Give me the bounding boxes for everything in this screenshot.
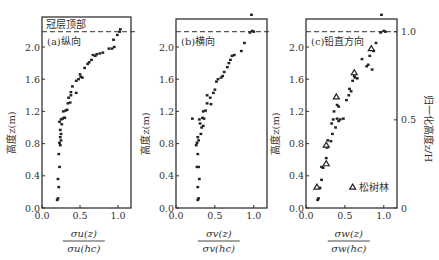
data-point	[199, 133, 202, 135]
data-point	[70, 91, 73, 93]
data-point	[113, 46, 116, 48]
data-point-triangle	[368, 46, 374, 51]
data-point	[67, 97, 70, 99]
data-point	[101, 51, 104, 53]
y-tick-label: 2.0	[159, 42, 174, 53]
y-tick-label: 1.2	[289, 106, 304, 117]
y-tick-label: 0.8	[25, 138, 40, 149]
panel-label: (b)横向	[181, 35, 215, 47]
data-point	[332, 118, 335, 120]
data-point-triangle	[323, 161, 329, 166]
x-tick-label: 1.0	[111, 210, 126, 221]
x-axis-label-denominator: σu(hc)	[67, 243, 100, 254]
data-point	[252, 31, 255, 33]
data-point	[58, 142, 61, 144]
data-point	[206, 94, 209, 96]
plot-frame	[176, 19, 267, 208]
panel-label: (a)纵向	[47, 35, 81, 47]
data-point	[330, 122, 333, 124]
data-point-triangle	[323, 142, 329, 147]
data-point	[59, 144, 62, 146]
data-point	[196, 136, 199, 138]
data-point	[337, 120, 340, 122]
x-axis-label-numerator: σv(z)	[206, 228, 232, 239]
data-point	[75, 92, 78, 94]
data-point	[351, 80, 354, 82]
right-y-tick-label: 0.5	[401, 114, 416, 125]
data-point	[329, 140, 332, 142]
data-point	[59, 136, 62, 138]
data-point	[58, 121, 61, 123]
data-point	[95, 53, 98, 55]
data-point	[331, 133, 334, 135]
y-tick-label: 0.4	[159, 170, 174, 181]
panel-b: 0.00.40.81.21.62.00.00.51.0(b)横向高度z(m)σv…	[139, 14, 271, 254]
y-tick-label: 1.6	[25, 74, 40, 85]
data-point	[326, 139, 329, 141]
data-point	[195, 144, 198, 146]
data-point	[118, 31, 121, 33]
data-point	[347, 94, 350, 96]
data-point	[197, 166, 200, 168]
data-point	[191, 117, 194, 119]
canopy-top-label: 冠层顶部	[46, 18, 86, 30]
data-point	[119, 28, 122, 30]
data-point	[60, 139, 63, 141]
x-tick-label: 0.5	[337, 210, 352, 221]
data-point	[317, 197, 320, 199]
data-point	[60, 123, 63, 125]
data-point	[206, 102, 209, 104]
data-point-triangle	[314, 184, 320, 189]
y-tick-label: 1.6	[289, 74, 304, 85]
data-point	[198, 178, 201, 180]
data-point	[198, 118, 201, 120]
data-point	[71, 85, 74, 87]
right-y-tick-label: 1.0	[401, 26, 416, 37]
data-point	[57, 178, 60, 180]
data-point	[58, 166, 61, 168]
data-point	[217, 78, 220, 80]
data-point	[226, 66, 229, 68]
data-point	[348, 88, 351, 90]
data-point	[380, 14, 383, 16]
x-axis-label-denominator: σv(hc)	[203, 243, 235, 254]
x-tick-label: 0.0	[34, 210, 49, 221]
data-point	[342, 117, 345, 119]
data-point	[57, 197, 60, 199]
data-point	[345, 99, 348, 101]
data-point	[57, 186, 60, 188]
data-point	[112, 39, 115, 41]
data-series	[56, 28, 122, 201]
data-point	[361, 58, 364, 60]
y-tick-label: 0.8	[289, 138, 304, 149]
data-point	[203, 117, 206, 119]
y-tick-label: 0.4	[25, 170, 40, 181]
data-point	[325, 157, 328, 159]
data-point	[196, 186, 199, 188]
data-point	[320, 179, 323, 181]
data-point	[375, 42, 378, 44]
data-point	[197, 197, 200, 199]
x-tick-label: 0.5	[72, 210, 87, 221]
plot-frame	[306, 19, 397, 208]
data-point	[196, 142, 199, 144]
data-point	[233, 54, 236, 56]
data-point	[223, 71, 226, 73]
data-point	[213, 88, 216, 90]
data-point	[384, 31, 387, 33]
data-point-triangle	[333, 94, 339, 99]
x-tick-label: 0.0	[298, 210, 313, 221]
data-point	[202, 125, 205, 127]
data-point	[371, 68, 374, 70]
x-axis-label-numerator: σw(z)	[335, 228, 364, 239]
data-point	[69, 101, 72, 103]
x-tick-label: 1.0	[246, 210, 261, 221]
data-point	[197, 139, 200, 141]
data-point	[196, 153, 199, 155]
chart-canvas: 0.00.40.81.21.62.00.00.51.0冠层顶部(a)纵向高度z(…	[0, 0, 439, 260]
y-axis-label: 高度z(m)	[269, 112, 281, 155]
data-point	[90, 59, 93, 61]
data-point	[227, 62, 230, 64]
data-point	[59, 129, 62, 131]
data-point	[66, 109, 69, 111]
